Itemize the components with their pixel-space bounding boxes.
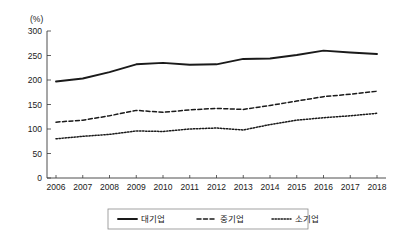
y-axis-tick-marks <box>47 31 51 178</box>
y-tick-label: 50 <box>33 149 43 159</box>
x-tick-label: 2007 <box>73 182 92 192</box>
legend-label-2: 중기업 <box>220 214 244 224</box>
series-lines-group <box>56 51 377 139</box>
legend-label-1: 대기업 <box>141 214 165 224</box>
x-axis-tick-labels: 2006200720082009201020112012201320142015… <box>47 182 387 192</box>
x-tick-label: 2018 <box>368 182 387 192</box>
x-tick-label: 2011 <box>181 182 200 192</box>
x-tick-label: 2017 <box>341 182 360 192</box>
x-tick-label: 2012 <box>207 182 226 192</box>
x-tick-label: 2006 <box>47 182 66 192</box>
x-tick-label: 2013 <box>234 182 253 192</box>
chart-figure: 050100150200250300 200620072008200920102… <box>0 0 410 243</box>
x-tick-label: 2014 <box>261 182 280 192</box>
y-tick-label: 250 <box>28 51 42 61</box>
x-tick-label: 2015 <box>287 182 306 192</box>
y-axis-unit-label: (%) <box>30 14 43 24</box>
legend-label-3: 소기업 <box>295 214 319 224</box>
line-chart-svg: 050100150200250300 200620072008200920102… <box>0 0 410 243</box>
y-tick-label: 300 <box>28 26 42 36</box>
series-line-1 <box>56 51 377 82</box>
x-tick-label: 2009 <box>127 182 146 192</box>
y-tick-label: 150 <box>28 100 42 110</box>
legend-entries-group: 대기업중기업소기업 <box>118 214 319 224</box>
y-axis-tick-labels: 050100150200250300 <box>28 26 42 183</box>
y-tick-label: 0 <box>37 173 42 183</box>
y-tick-label: 100 <box>28 124 42 134</box>
y-tick-label: 200 <box>28 75 42 85</box>
x-tick-label: 2016 <box>314 182 333 192</box>
x-tick-label: 2010 <box>154 182 173 192</box>
x-tick-label: 2008 <box>100 182 119 192</box>
